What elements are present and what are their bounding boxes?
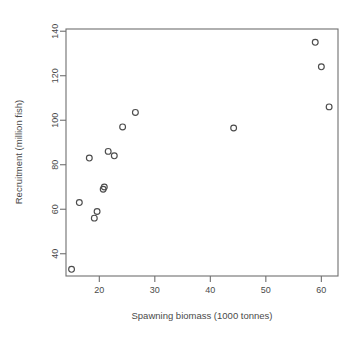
chart-canvas: 406080100120140 2030405060 Spawning biom… [0,0,361,339]
y-tick-label: 40 [50,249,60,259]
y-tick-label: 120 [50,68,60,83]
y-tick-label: 140 [50,24,60,39]
y-tick-label: 100 [50,113,60,128]
x-tick-label: 20 [94,285,104,295]
x-tick-label: 40 [205,285,215,295]
x-tick-label: 60 [316,285,326,295]
y-tick-label: 60 [50,204,60,214]
scatter-plot-figure: 406080100120140 2030405060 Spawning biom… [0,0,361,339]
x-tick-label: 30 [150,285,160,295]
y-tick-label: 80 [50,160,60,170]
y-axis-title: Recruitment (million fish) [13,100,24,205]
x-tick-label: 50 [261,285,271,295]
x-axis-title: Spawning biomass (1000 tonnes) [131,310,272,321]
